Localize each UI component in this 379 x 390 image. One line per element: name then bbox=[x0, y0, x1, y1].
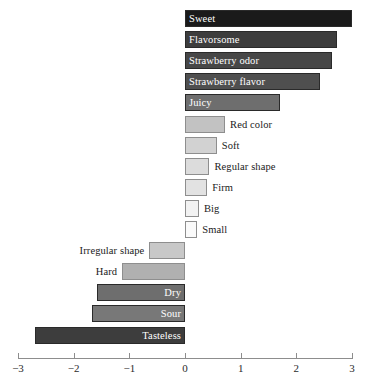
bar-row: Sweet bbox=[0, 10, 379, 27]
x-axis-tick bbox=[18, 353, 19, 359]
bar-value-label: Small bbox=[202, 221, 227, 238]
x-axis-tick bbox=[185, 353, 186, 359]
bar-row: Small bbox=[0, 221, 379, 238]
bar-value-label: Dry bbox=[164, 284, 181, 301]
bar-row: Red color bbox=[0, 116, 379, 133]
x-axis-tick-label: 2 bbox=[294, 362, 300, 374]
bar bbox=[185, 137, 217, 154]
plot-area: SweetFlavorsomeStrawberry odorStrawberry… bbox=[0, 0, 379, 348]
x-axis: −3−2−10123 bbox=[0, 352, 379, 390]
bar-value-label: Strawberry odor bbox=[189, 52, 259, 69]
bar bbox=[185, 200, 199, 217]
bar-value-label: Hard bbox=[96, 263, 117, 280]
bar-row: Juicy bbox=[0, 94, 379, 111]
bar-value-label: Soft bbox=[222, 137, 240, 154]
bar-value-label: Irregular shape bbox=[80, 242, 145, 259]
bar-value-label: Sour bbox=[161, 305, 181, 322]
bar-chart: SweetFlavorsomeStrawberry odorStrawberry… bbox=[0, 0, 379, 390]
bar bbox=[185, 116, 225, 133]
bar bbox=[122, 263, 185, 280]
bar-row: Dry bbox=[0, 284, 379, 301]
bar-row: Strawberry flavor bbox=[0, 73, 379, 90]
bar bbox=[149, 242, 185, 259]
bar-row: Regular shape bbox=[0, 158, 379, 175]
x-axis-tick-label: 3 bbox=[349, 362, 355, 374]
bar-value-label: Strawberry flavor bbox=[189, 73, 265, 90]
x-axis-tick-label: −3 bbox=[12, 362, 24, 374]
bar-row: Irregular shape bbox=[0, 242, 379, 259]
bar bbox=[185, 221, 197, 238]
bar-row: Soft bbox=[0, 137, 379, 154]
x-axis-tick-label: 0 bbox=[182, 362, 188, 374]
bar-row: Tasteless bbox=[0, 327, 379, 344]
x-axis-tick bbox=[129, 353, 130, 359]
bar bbox=[185, 158, 209, 175]
bar-row: Sour bbox=[0, 305, 379, 322]
bar-row: Flavorsome bbox=[0, 31, 379, 48]
bar-value-label: Firm bbox=[212, 179, 233, 196]
bar-row: Big bbox=[0, 200, 379, 217]
bar-value-label: Sweet bbox=[189, 10, 215, 27]
x-axis-tick-label: −1 bbox=[123, 362, 135, 374]
x-axis-tick bbox=[74, 353, 75, 359]
x-axis-tick-label: 1 bbox=[238, 362, 244, 374]
bar-value-label: Juicy bbox=[189, 94, 212, 111]
x-axis-tick bbox=[352, 353, 353, 359]
bar bbox=[185, 179, 207, 196]
bar-value-label: Flavorsome bbox=[189, 31, 240, 48]
bar-row: Firm bbox=[0, 179, 379, 196]
bar-value-label: Big bbox=[204, 200, 219, 217]
bar-row: Strawberry odor bbox=[0, 52, 379, 69]
bar-value-label: Tasteless bbox=[142, 327, 181, 344]
x-axis-tick bbox=[296, 353, 297, 359]
x-axis-tick-label: −2 bbox=[68, 362, 80, 374]
bar-value-label: Regular shape bbox=[214, 158, 275, 175]
bar-value-label: Red color bbox=[230, 116, 272, 133]
bar-row: Hard bbox=[0, 263, 379, 280]
x-axis-tick bbox=[241, 353, 242, 359]
